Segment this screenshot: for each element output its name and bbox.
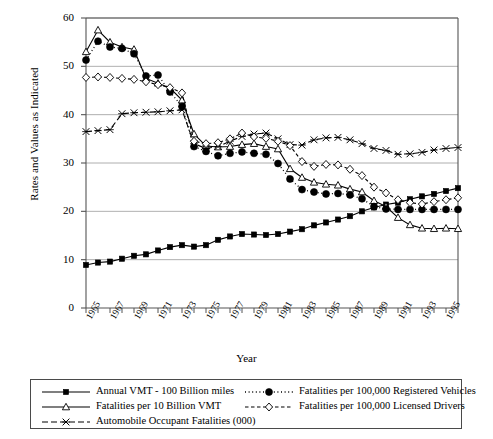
data-point-open-diamond [178,89,185,97]
data-point-open-diamond [118,74,125,82]
series-3 [83,38,462,213]
data-point-x-cross [298,142,306,149]
data-point-filled-square [335,217,340,222]
data-point-filled-circle [155,72,162,79]
series-line [86,77,458,204]
data-point-open-diamond [322,160,329,168]
data-point-filled-circle [311,189,318,196]
series-0 [83,186,460,268]
data-point-filled-circle [131,50,138,57]
data-point-x-cross [370,145,378,152]
legend-marker-filled-circle [243,386,295,398]
data-point-open-diamond [358,172,365,180]
data-point-filled-square [83,262,88,267]
legend-marker-open-triangle [40,401,92,413]
series-line [86,188,458,265]
data-point-filled-square [119,256,124,261]
data-point-filled-circle [266,389,273,396]
data-point-filled-circle [323,190,330,197]
data-point-filled-circle [275,160,282,167]
data-point-filled-circle [215,152,222,159]
data-point-x-cross [406,150,414,157]
data-point-filled-square [323,220,328,225]
data-point-filled-square [443,188,448,193]
data-point-open-triangle [82,48,89,55]
data-point-filled-square [251,232,256,237]
data-point-x-cross [394,151,402,158]
data-point-x-cross [310,136,318,143]
data-point-filled-square [359,209,364,214]
data-point-x-cross [382,147,390,154]
legend-label: Fatalities per 10 Billion VMT [96,400,221,412]
series-2 [82,106,462,157]
chart-legend: Annual VMT - 100 Billion miles Fatalitie… [30,379,462,429]
data-point-filled-square [227,234,232,239]
legend-label: Annual VMT - 100 Billion miles [96,385,234,397]
data-point-x-cross [442,145,450,152]
data-point-filled-circle [347,191,354,198]
legend-marker-x-cross [40,416,92,428]
y-tick-label: 0 [40,302,74,313]
data-point-filled-square [287,229,292,234]
data-point-x-cross [154,108,162,115]
data-point-open-diamond [94,73,101,81]
data-point-x-cross [418,149,426,156]
data-point-filled-circle [395,206,402,213]
data-point-filled-circle [227,150,234,157]
data-point-filled-square [419,194,424,199]
data-point-x-cross [166,107,174,114]
data-point-filled-square [299,227,304,232]
data-point-filled-square [455,186,460,191]
data-point-x-cross [334,134,342,141]
data-point-x-cross [430,147,438,154]
data-point-filled-square [131,253,136,258]
data-point-filled-circle [359,195,366,202]
data-point-filled-square [275,231,280,236]
data-point-open-diamond [346,165,353,173]
y-tick-label: 50 [40,60,74,71]
data-point-filled-circle [239,148,246,155]
data-point-open-diamond [82,73,89,81]
legend-label: Fatalities per 100,000 Licensed Drivers [299,400,465,412]
y-tick-label: 40 [40,109,74,120]
data-point-open-diamond [130,75,137,83]
data-point-filled-circle [371,203,378,210]
data-point-filled-circle [83,57,90,64]
data-point-filled-square [347,214,352,219]
data-point-filled-square [167,245,172,250]
data-point-open-triangle [298,174,305,181]
data-point-open-diamond [265,403,272,411]
x-axis-title: Year [0,352,493,364]
data-point-open-triangle [406,221,413,228]
data-point-open-diamond [310,162,317,170]
series-4 [82,73,461,208]
data-point-open-diamond [430,198,437,206]
data-point-filled-circle [203,148,210,155]
data-point-filled-circle [287,175,294,182]
data-point-filled-circle [119,45,126,52]
data-point-x-cross [118,110,126,117]
data-point-open-diamond [454,194,461,202]
data-point-open-diamond [106,73,113,81]
data-point-filled-square [155,248,160,253]
data-point-x-cross [94,127,102,134]
data-point-filled-circle [95,38,102,45]
legend-label: Automobile Occupant Fatalities (000) [96,415,256,427]
data-point-x-cross [322,134,330,141]
data-point-filled-square [95,260,100,265]
data-point-x-cross [106,126,114,133]
legend-marker-filled-square [40,386,92,398]
data-point-open-diamond [382,189,389,197]
chart-figure: Rates and Values as Indicated Year Annua… [0,0,493,439]
data-point-open-diamond [442,196,449,204]
data-point-filled-square [431,191,436,196]
legend-marker-open-diamond [243,401,295,413]
data-point-filled-circle [383,205,390,212]
data-point-filled-square [311,223,316,228]
data-point-open-diamond [334,161,341,169]
data-point-x-cross [62,419,70,426]
y-tick-label: 30 [40,157,74,168]
data-point-filled-circle [443,206,450,213]
data-point-filled-circle [107,44,114,51]
data-point-open-triangle [286,165,293,172]
